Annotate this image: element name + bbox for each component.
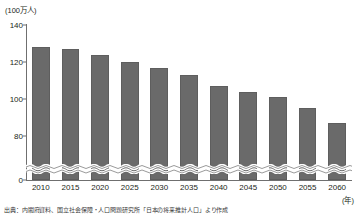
y-tick-label: 140 — [10, 21, 23, 30]
bar-group — [210, 25, 228, 180]
bar — [150, 68, 168, 180]
x-tick-label: 2040 — [210, 183, 228, 192]
y-tick-mark — [23, 25, 26, 26]
x-tick-label: 2020 — [91, 183, 109, 192]
x-tick-label: 2030 — [150, 183, 168, 192]
bar — [121, 62, 139, 180]
bar — [328, 123, 346, 180]
y-tick-label: 80 — [14, 132, 23, 141]
x-tick-label: 2050 — [269, 183, 287, 192]
y-tick-label: 120 — [10, 58, 23, 67]
population-bar-chart: (100万人) 140120100800 2010201520202025203… — [0, 0, 358, 214]
y-tick-mark — [23, 99, 26, 100]
bar — [91, 55, 109, 180]
bar — [269, 97, 287, 180]
bar-group — [180, 25, 198, 180]
plot-area: 140120100800 — [26, 25, 352, 180]
y-tick-label: 100 — [10, 95, 23, 104]
bar — [32, 47, 50, 180]
bar-group — [239, 25, 257, 180]
bar-group — [269, 25, 287, 180]
bar-group — [32, 25, 50, 180]
bar — [62, 49, 80, 180]
bar — [210, 86, 228, 180]
x-axis-unit-label: (年) — [342, 194, 354, 205]
x-tick-label: 2010 — [32, 183, 50, 192]
y-tick-mark — [23, 136, 26, 137]
bar-group — [91, 25, 109, 180]
x-tick-label: 2045 — [239, 183, 257, 192]
bar-group — [121, 25, 139, 180]
y-tick-mark — [23, 180, 26, 181]
x-tick-label: 2025 — [121, 183, 139, 192]
bar-group — [150, 25, 168, 180]
y-tick-mark — [23, 62, 26, 63]
x-tick-label: 2035 — [180, 183, 198, 192]
bar — [299, 108, 317, 180]
bar-group — [299, 25, 317, 180]
bars-container — [26, 25, 352, 180]
bar-group — [62, 25, 80, 180]
bar — [180, 75, 198, 180]
x-tick-label: 2060 — [328, 183, 346, 192]
x-axis-line — [26, 180, 352, 181]
bar — [239, 92, 257, 180]
bar-group — [328, 25, 346, 180]
y-axis-unit-label: (100万人) — [5, 4, 37, 15]
x-tick-label: 2015 — [62, 183, 80, 192]
x-tick-label: 2055 — [299, 183, 317, 192]
source-note: 出典：内閣府資料、国立社会保障・人口問題研究所「日本の将来推計人口」より作成 — [4, 205, 228, 214]
